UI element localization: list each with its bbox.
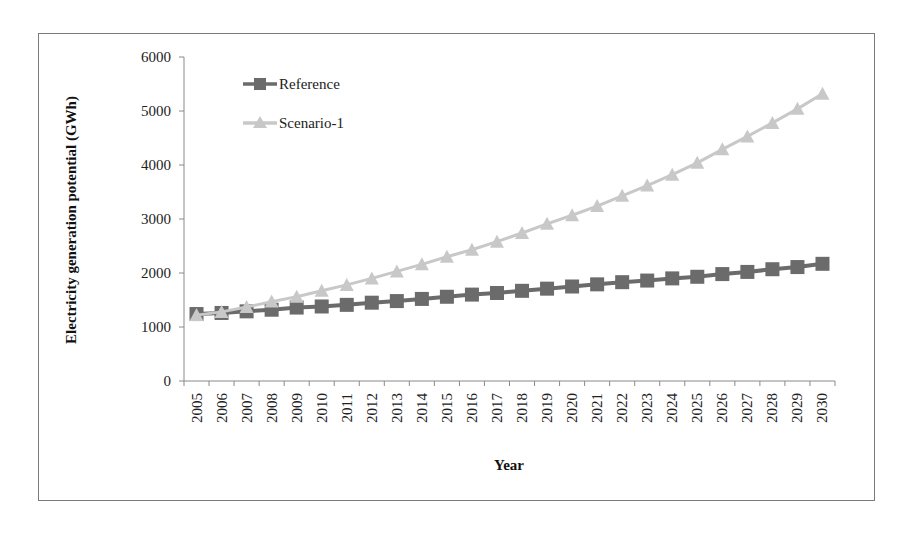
y-axis: 0100020003000400050006000 (141, 49, 184, 389)
square-marker (690, 270, 704, 284)
triangle-marker (665, 168, 679, 181)
x-tick-label: 2028 (764, 393, 780, 423)
x-tick-label: 2005 (189, 393, 205, 423)
square-marker (815, 257, 829, 271)
triangle-marker (815, 87, 829, 100)
legend-item-reference: Reference (243, 76, 340, 92)
y-tick-label: 6000 (141, 49, 171, 65)
square-marker (565, 280, 579, 294)
square-marker (540, 282, 554, 296)
x-tick-label: 2023 (639, 393, 655, 423)
x-tick-label: 2012 (364, 393, 380, 423)
triangle-marker (740, 129, 754, 142)
x-tick-label: 2025 (689, 393, 705, 423)
x-tick-label: 2018 (514, 393, 530, 423)
triangle-marker (690, 156, 704, 169)
square-marker (365, 296, 379, 310)
x-tick-label: 2011 (339, 393, 355, 422)
y-tick-label: 4000 (141, 157, 171, 173)
square-marker (590, 277, 604, 291)
triangle-marker (790, 102, 804, 115)
x-tick-label: 2029 (789, 393, 805, 423)
x-tick-label: 2022 (614, 393, 630, 423)
square-marker (715, 267, 729, 281)
x-axis-title: Year (494, 457, 524, 473)
series-reference (190, 257, 830, 321)
x-tick-label: 2019 (539, 393, 555, 423)
y-tick-label: 3000 (141, 211, 171, 227)
legend-label-reference: Reference (279, 76, 340, 92)
y-tick-label: 5000 (141, 103, 171, 119)
square-marker (315, 299, 329, 313)
line-chart: 0100020003000400050006000 20052006200720… (0, 0, 910, 535)
square-marker (390, 294, 404, 308)
x-tick-label: 2015 (439, 393, 455, 423)
triangle-marker (765, 116, 779, 129)
y-axis-title: Electricity generation potential (GWh) (63, 96, 80, 344)
square-marker (440, 290, 454, 304)
x-tick-label: 2014 (414, 393, 430, 424)
x-tick-label: 2030 (814, 393, 830, 423)
x-tick-label: 2021 (589, 393, 605, 423)
square-marker (415, 292, 429, 306)
x-tick-label: 2020 (564, 393, 580, 423)
square-marker (640, 274, 654, 288)
x-tick-label: 2010 (314, 393, 330, 423)
x-tick-label: 2007 (239, 393, 255, 424)
y-tick-label: 1000 (141, 319, 171, 335)
x-tick-label: 2013 (389, 393, 405, 423)
square-marker-icon (254, 78, 266, 90)
square-marker (740, 265, 754, 279)
x-tick-label: 2027 (739, 393, 755, 424)
square-marker (665, 271, 679, 285)
square-marker (490, 286, 504, 300)
square-marker (340, 298, 354, 312)
legend-label-scenario-1: Scenario-1 (279, 115, 344, 131)
triangle-marker (715, 142, 729, 155)
square-marker (465, 288, 479, 302)
x-tick-label: 2006 (214, 393, 230, 424)
square-marker (790, 260, 804, 274)
x-tick-label: 2009 (289, 393, 305, 423)
y-tick-label: 0 (164, 373, 172, 389)
square-marker (615, 275, 629, 289)
legend: Reference Scenario-1 (243, 76, 344, 131)
x-tick-label: 2016 (464, 393, 480, 424)
legend-item-scenario-1: Scenario-1 (243, 115, 344, 131)
square-marker (765, 262, 779, 276)
x-tick-label: 2017 (489, 393, 505, 424)
square-marker (515, 284, 529, 298)
x-tick-label: 2024 (664, 393, 680, 424)
y-tick-label: 2000 (141, 265, 171, 281)
x-axis: 2005200620072008200920102011201220132014… (184, 381, 835, 423)
x-tick-label: 2008 (264, 393, 280, 423)
x-tick-label: 2026 (714, 393, 730, 424)
